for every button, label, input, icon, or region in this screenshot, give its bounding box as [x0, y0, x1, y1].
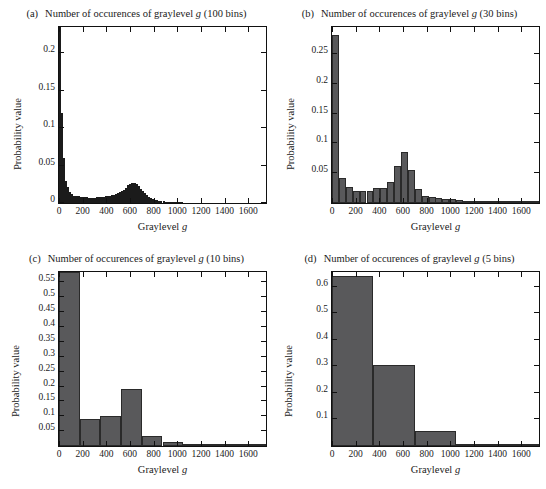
x-tick-label: 400 — [99, 206, 113, 216]
bar — [367, 191, 374, 203]
y-tick-label: 0.2 — [316, 75, 328, 85]
y-tick — [534, 339, 539, 340]
x-tick — [225, 272, 226, 277]
x-tick — [177, 272, 178, 277]
y-tick — [534, 172, 539, 173]
y-tick-label: 0 — [50, 194, 55, 204]
x-tick — [177, 27, 178, 32]
x-tick — [450, 198, 451, 203]
x-tick — [59, 272, 60, 277]
x-tick — [379, 441, 380, 446]
x-tick-label: 1200 — [191, 206, 210, 216]
y-tick — [261, 415, 266, 416]
x-tick — [332, 27, 333, 32]
x-tick-label: 1600 — [239, 449, 258, 459]
x-tick — [248, 272, 249, 277]
y-tick — [59, 386, 64, 387]
panel-a-tag: (a) — [26, 8, 38, 19]
y-tick-label: 0.15 — [311, 105, 328, 115]
x-tick — [427, 272, 428, 277]
x-tick — [427, 198, 428, 203]
y-tick — [332, 392, 337, 393]
y-tick — [261, 296, 266, 297]
panel-b-bins-label: (30 bins) — [480, 8, 518, 19]
x-tick-label: 1400 — [488, 206, 507, 216]
panel-d-x-axis-italic: g — [455, 464, 460, 475]
x-tick — [130, 198, 131, 203]
panel-d: (d)Number of occurences of graylevel g (… — [273, 245, 546, 489]
figure-histogram-graylevel-bins: (a)Number of occurences of graylevel g (… — [0, 0, 546, 489]
y-tick-label: 0.1 — [316, 410, 328, 420]
x-tick — [83, 441, 84, 446]
panel-c-y-axis-title: Probability value — [10, 345, 21, 417]
x-tick — [474, 441, 475, 446]
bar — [456, 444, 497, 446]
y-tick — [534, 53, 539, 54]
y-tick — [534, 83, 539, 84]
x-tick-label: 1200 — [464, 449, 483, 459]
x-tick-label: 1400 — [215, 206, 234, 216]
x-tick — [498, 27, 499, 32]
y-tick-label: 0.4 — [316, 331, 328, 341]
y-tick — [332, 53, 337, 54]
y-tick — [534, 418, 539, 419]
bar — [121, 389, 142, 446]
x-tick-label: 1000 — [168, 206, 187, 216]
y-tick — [261, 127, 266, 128]
bar — [498, 444, 539, 446]
panel-d-tag: (d) — [304, 253, 316, 264]
x-tick — [248, 27, 249, 32]
bar — [491, 201, 498, 203]
x-tick — [106, 272, 107, 277]
x-tick — [201, 198, 202, 203]
y-tick-label: 0.15 — [38, 392, 55, 402]
x-tick — [154, 27, 155, 32]
y-tick — [534, 392, 539, 393]
x-tick-label: 0 — [330, 206, 335, 216]
x-tick — [521, 27, 522, 32]
y-tick-label: 0.5 — [316, 304, 328, 314]
x-tick-label: 1400 — [488, 449, 507, 459]
panel-a-bars — [59, 27, 266, 203]
y-tick — [59, 400, 64, 401]
y-tick — [261, 430, 266, 431]
x-tick — [130, 272, 131, 277]
bar — [415, 189, 422, 203]
bar — [59, 272, 80, 446]
y-tick-label: 0.05 — [38, 157, 55, 167]
bar — [346, 187, 353, 203]
panel-d-y-axis-title: Probability value — [283, 345, 294, 417]
bar — [373, 365, 414, 446]
y-tick — [59, 341, 64, 342]
x-tick-label: 1600 — [239, 206, 258, 216]
panel-a: (a)Number of occurences of graylevel g (… — [0, 0, 273, 244]
y-tick — [332, 83, 337, 84]
y-tick — [534, 286, 539, 287]
x-tick — [521, 272, 522, 277]
x-tick — [201, 441, 202, 446]
x-tick — [356, 272, 357, 277]
x-tick — [130, 27, 131, 32]
panel-c-x-axis-italic: g — [182, 464, 187, 475]
x-tick — [450, 272, 451, 277]
y-tick — [59, 296, 64, 297]
y-tick-label: 0.6 — [316, 278, 328, 288]
x-tick — [450, 441, 451, 446]
y-tick-label: 0.1 — [316, 134, 328, 144]
panel-b-x-axis-label-text: Graylevel — [411, 221, 452, 232]
bar — [408, 170, 415, 203]
panel-d-plot-area: 0.10.20.30.40.50.60200400600800100012001… — [331, 271, 540, 447]
y-tick-label: 0.4 — [43, 318, 55, 328]
x-tick-label: 200 — [349, 449, 363, 459]
panel-c-bars — [59, 272, 266, 446]
bar — [380, 188, 387, 204]
bar — [498, 201, 505, 203]
y-tick — [59, 371, 64, 372]
x-tick — [403, 27, 404, 32]
x-tick — [177, 441, 178, 446]
y-tick — [261, 386, 266, 387]
panel-a-y-axis-title: Probability value — [12, 98, 23, 170]
y-tick-label: 0.3 — [43, 348, 55, 358]
x-tick — [498, 198, 499, 203]
y-tick — [261, 90, 266, 91]
